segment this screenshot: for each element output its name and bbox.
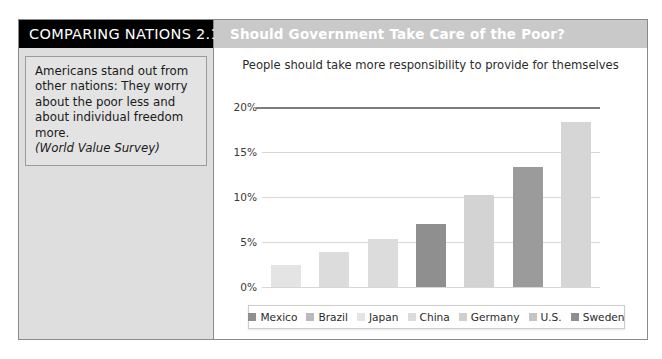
legend-label: U.S. (541, 311, 562, 323)
chart-title-bar: Should Government Take Care of the Poor? (214, 20, 647, 48)
legend-swatch (571, 313, 579, 321)
comparing-nations-figure: COMPARING NATIONS 2.1 Americans stand ou… (18, 19, 648, 340)
x-axis-line (256, 107, 600, 109)
bar-us (513, 167, 543, 287)
figure-badge-label: COMPARING NATIONS 2.1 (29, 26, 220, 42)
note-source: (World Value Survey) (35, 141, 197, 156)
left-panel: COMPARING NATIONS 2.1 Americans stand ou… (19, 20, 214, 339)
legend-label: Mexico (260, 311, 297, 323)
legend-item-japan[interactable]: Japan (357, 311, 399, 323)
y-axis-tick-label: 5% (240, 236, 257, 248)
legend-swatch (357, 313, 365, 321)
legend-swatch (408, 313, 416, 321)
y-axis-tick-label: 20% (233, 101, 257, 113)
legend-label: Brazil (318, 311, 348, 323)
y-axis-tick-label: 15% (233, 146, 257, 158)
legend-swatch (459, 313, 467, 321)
bar-sweden (561, 122, 591, 287)
legend-item-mexico[interactable]: Mexico (248, 311, 297, 323)
note-text: Americans stand out from other nations: … (35, 64, 188, 140)
left-panel-body: Americans stand out from other nations: … (19, 48, 213, 339)
plot-region: 20%15%10%5%0% (262, 107, 600, 287)
legend-swatch (529, 313, 537, 321)
chart-headline: People should take more responsibility t… (214, 58, 647, 72)
legend-label: China (420, 311, 450, 323)
note-box: Americans stand out from other nations: … (25, 56, 207, 166)
legend-item-germany[interactable]: Germany (459, 311, 520, 323)
legend-label: Sweden (583, 311, 625, 323)
legend-item-us[interactable]: U.S. (529, 311, 562, 323)
legend-item-brazil[interactable]: Brazil (306, 311, 348, 323)
legend-label: Germany (471, 311, 520, 323)
legend-swatch (248, 313, 256, 321)
gridline (262, 287, 600, 288)
legend-label: Japan (369, 311, 399, 323)
bar-japan (368, 239, 398, 287)
figure-badge: COMPARING NATIONS 2.1 (19, 20, 213, 48)
legend-item-sweden[interactable]: Sweden (571, 311, 625, 323)
chart-legend: MexicoBrazilJapanChinaGermanyU.S.Sweden (248, 305, 625, 329)
chart-title-bar-label: Should Government Take Care of the Poor? (230, 26, 565, 42)
bar-germany (464, 195, 494, 287)
right-panel: Should Government Take Care of the Poor?… (214, 20, 647, 339)
y-axis-tick-label: 0% (240, 281, 257, 293)
legend-swatch (306, 313, 314, 321)
bar-series (262, 107, 600, 287)
chart-area: People should take more responsibility t… (214, 48, 647, 339)
bar-mexico (271, 265, 301, 287)
bar-brazil (319, 252, 349, 287)
legend-item-china[interactable]: China (408, 311, 450, 323)
y-axis-tick-label: 10% (233, 191, 257, 203)
bar-china (416, 224, 446, 287)
